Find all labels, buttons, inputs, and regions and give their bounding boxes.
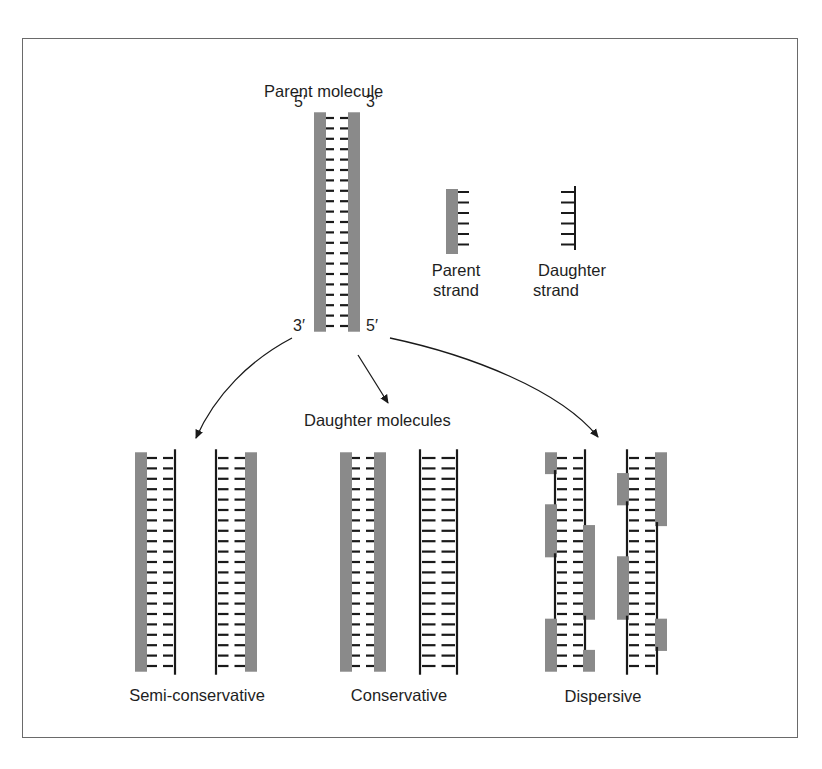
conservative-label: Conservative (351, 686, 447, 705)
five-prime-bottom-right-label: 5′ (366, 317, 378, 335)
legend-parent-strand-icon (446, 189, 469, 254)
legend-parent-strand-label-2: strand (433, 281, 479, 300)
parent-molecule (314, 112, 360, 331)
replication-models-diagram (0, 0, 822, 769)
dispersive-molecules (545, 449, 667, 674)
arrow-to-semi-conservative (196, 338, 292, 438)
three-prime-bottom-left-label: 3′ (293, 317, 305, 335)
dispersive-label: Dispersive (564, 687, 641, 706)
five-prime-top-left-label: 5′ (294, 93, 306, 111)
legend-daughter-strand-label-1: Daughter (538, 261, 606, 280)
arrow-to-conservative (358, 355, 388, 403)
conservative-molecules (340, 449, 457, 674)
semi-conservative-molecules (135, 449, 257, 674)
semi-conservative-label: Semi-conservative (129, 686, 265, 705)
daughter-molecules-label: Daughter molecules (304, 411, 451, 430)
legend-parent-strand-label-1: Parent (432, 261, 481, 280)
three-prime-top-right-label: 3′ (366, 93, 378, 111)
legend-daughter-strand-icon (561, 186, 575, 250)
legend-daughter-strand-label-2: strand (533, 281, 579, 300)
